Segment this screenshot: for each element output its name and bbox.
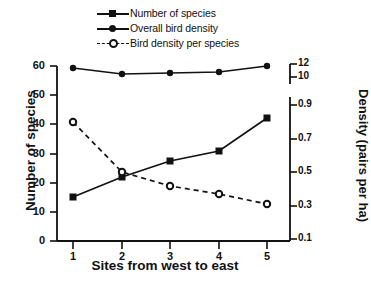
y-axis-title: Number of species bbox=[23, 66, 38, 236]
y2-axis-tick-label: 10 bbox=[298, 70, 324, 81]
y2-axis-tick-label: 0.7 bbox=[298, 132, 324, 143]
y-axis-tick-label: 0 bbox=[21, 234, 45, 246]
y2-axis-tick-label: 0.1 bbox=[298, 232, 324, 243]
x-axis-title: Sites from west to east bbox=[40, 258, 290, 273]
y2-axis-tick-label: 12 bbox=[298, 57, 324, 68]
y2-axis-tick-label: 0.5 bbox=[298, 165, 324, 176]
y2-axis-tick-label: 0.9 bbox=[298, 98, 324, 109]
axis-ticks bbox=[50, 64, 297, 249]
y2-axis-tick-label: 0.3 bbox=[298, 199, 324, 210]
y2-axis-title: Density (pairs per ha) bbox=[356, 61, 371, 251]
axis-lines bbox=[57, 64, 290, 241]
